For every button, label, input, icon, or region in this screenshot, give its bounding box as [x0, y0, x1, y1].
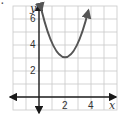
- parabola-chart: 2 4 2 4 6 x y: [0, 0, 121, 118]
- y-tick-4: 4: [30, 39, 36, 50]
- y-tick-2: 2: [30, 65, 36, 76]
- x-tick-4: 4: [88, 100, 94, 111]
- y-axis-label: y: [29, 2, 37, 15]
- x-axis-label: x: [109, 99, 116, 112]
- x-tick-2: 2: [62, 100, 68, 111]
